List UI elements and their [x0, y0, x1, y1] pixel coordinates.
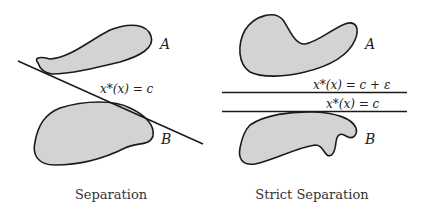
- set-a-label: A: [158, 36, 170, 52]
- set-a-label: A: [363, 36, 375, 52]
- lower-hyperplane-label: x*(x) = c: [326, 97, 380, 111]
- separation-diagram: A B x*(x) = c Separation A B x*(x) = c +…: [0, 0, 422, 212]
- set-a-shape: [240, 15, 357, 76]
- panel-strict-separation: A B x*(x) = c + ε x*(x) = c Strict Separ…: [222, 15, 407, 202]
- panel-separation: A B x*(x) = c Separation: [18, 25, 203, 202]
- caption-strict-separation: Strict Separation: [255, 187, 369, 202]
- set-b-shape: [34, 102, 153, 165]
- set-b-label: B: [160, 131, 171, 147]
- set-a-shape: [37, 25, 152, 74]
- set-b-label: B: [364, 131, 375, 147]
- hyperplane-label: x*(x) = c: [100, 82, 154, 96]
- upper-hyperplane-label: x*(x) = c + ε: [313, 78, 390, 92]
- set-b-shape: [240, 112, 357, 164]
- caption-separation: Separation: [75, 187, 148, 202]
